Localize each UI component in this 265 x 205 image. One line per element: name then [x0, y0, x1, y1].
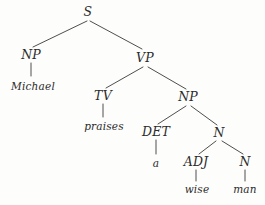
- tree-edge-np2-det: [158, 106, 186, 124]
- tree-node-praises: praises: [84, 121, 124, 132]
- tree-edge-np2-n1: [191, 106, 217, 125]
- tree-edge-s-np1: [33, 21, 87, 47]
- tree-edge-n1-n2: [222, 141, 243, 154]
- tree-edges: [0, 0, 265, 205]
- tree-node-michael: Michael: [11, 81, 55, 92]
- tree-node-n1: N: [213, 127, 224, 140]
- tree-node-np2: NP: [178, 91, 198, 104]
- tree-node-adj: ADJ: [184, 156, 209, 169]
- tree-node-a: a: [153, 158, 159, 169]
- tree-node-n2: N: [239, 156, 250, 169]
- tree-node-det: DET: [142, 126, 170, 139]
- syntax-tree-figure: SNPVPMichaelTVNPpraisesDETNaADJNwiseman: [0, 0, 265, 205]
- tree-node-wise: wise: [185, 184, 210, 195]
- tree-node-np1: NP: [21, 49, 41, 62]
- tree-node-man: man: [233, 184, 257, 195]
- tree-edge-vp-tv: [106, 67, 143, 88]
- tree-edge-n1-adj: [199, 141, 216, 154]
- tree-node-tv: TV: [94, 90, 112, 103]
- tree-edge-vp-np2: [148, 67, 186, 89]
- tree-node-s: S: [84, 6, 93, 19]
- tree-edge-s-vp: [90, 21, 142, 49]
- tree-node-vp: VP: [136, 52, 154, 65]
